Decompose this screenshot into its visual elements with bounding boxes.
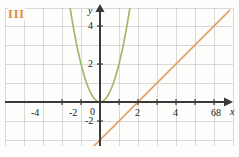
figure-label: III bbox=[8, 7, 25, 20]
graph-figure: III -4 -2 0 2 4 6 8 4 2 -2 y x bbox=[0, 0, 239, 157]
x-tick-label-neg4: -4 bbox=[31, 108, 39, 118]
y-tick-label-neg2: -2 bbox=[85, 116, 93, 126]
x-axis-name: x bbox=[230, 107, 234, 117]
y-axis-name: y bbox=[88, 6, 92, 16]
x-tick-label-neg2: -2 bbox=[69, 108, 77, 118]
x-tick-label-8: 8 bbox=[216, 108, 221, 118]
x-tick-label-4: 4 bbox=[173, 108, 178, 118]
x-tick-label-2: 2 bbox=[135, 108, 140, 118]
y-tick-label-4: 4 bbox=[88, 21, 93, 31]
plot-background bbox=[0, 0, 239, 157]
y-tick-label-2: 2 bbox=[88, 59, 93, 69]
coordinate-plane bbox=[0, 0, 239, 157]
